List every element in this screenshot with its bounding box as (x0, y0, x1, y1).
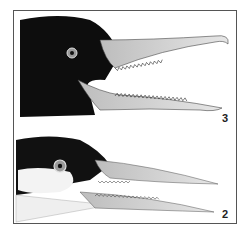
bird-head-2 (16, 137, 218, 223)
bird-illustrations (0, 0, 252, 232)
panel-label-3: 3 (222, 112, 228, 124)
bird-head-3 (20, 16, 228, 117)
panel-label-2: 2 (222, 208, 228, 220)
